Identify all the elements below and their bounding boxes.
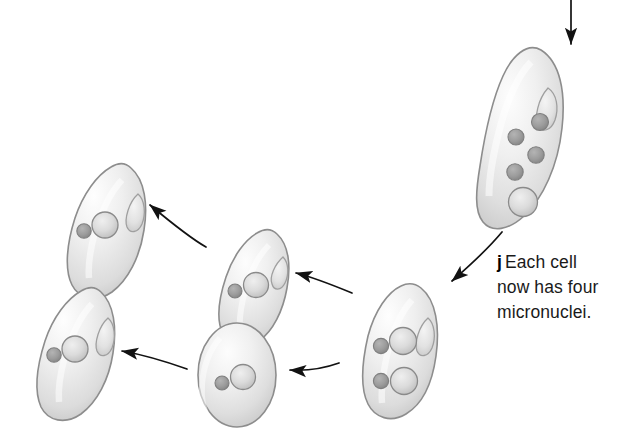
micronucleus	[373, 373, 388, 388]
macronucleus	[391, 368, 418, 395]
figure-canvas: jEach cell now has four micronuclei.	[0, 0, 627, 444]
caption-line-2: now has four	[497, 275, 625, 300]
macronucleus	[390, 328, 417, 355]
cell-bottom-left	[37, 288, 115, 421]
cell-center	[363, 284, 438, 419]
macronucleus	[231, 365, 256, 390]
caption-block: jEach cell now has four micronuclei.	[497, 250, 625, 325]
macronucleus	[509, 188, 538, 217]
micronucleus	[228, 284, 242, 298]
cell-bottom-middle	[198, 323, 276, 427]
caption-step-label: j	[497, 252, 502, 272]
micronucleus	[47, 348, 61, 362]
caption-line-1: jEach cell	[497, 250, 625, 275]
cell-upper-left	[67, 164, 145, 299]
arrow-center-to-upper-middle	[296, 273, 352, 293]
macronucleus	[62, 336, 88, 362]
micronucleus	[77, 224, 91, 238]
micronucleus	[373, 338, 388, 353]
caption-line-1-text: Each cell	[505, 252, 577, 272]
macronucleus	[244, 273, 269, 298]
arrow-bottom-middle-to-bottom-left	[122, 351, 187, 369]
caption-line-3: micronuclei.	[497, 300, 625, 325]
arrow-upper-middle-to-upper-left	[150, 205, 206, 247]
arrow-center-to-bottom-middle	[290, 363, 339, 370]
arrow-caption-leader	[452, 232, 502, 281]
paramecium-diagram-illustration	[0, 0, 627, 444]
micronucleus	[215, 376, 229, 390]
macronucleus	[92, 212, 118, 238]
cell-top-right	[477, 48, 564, 229]
